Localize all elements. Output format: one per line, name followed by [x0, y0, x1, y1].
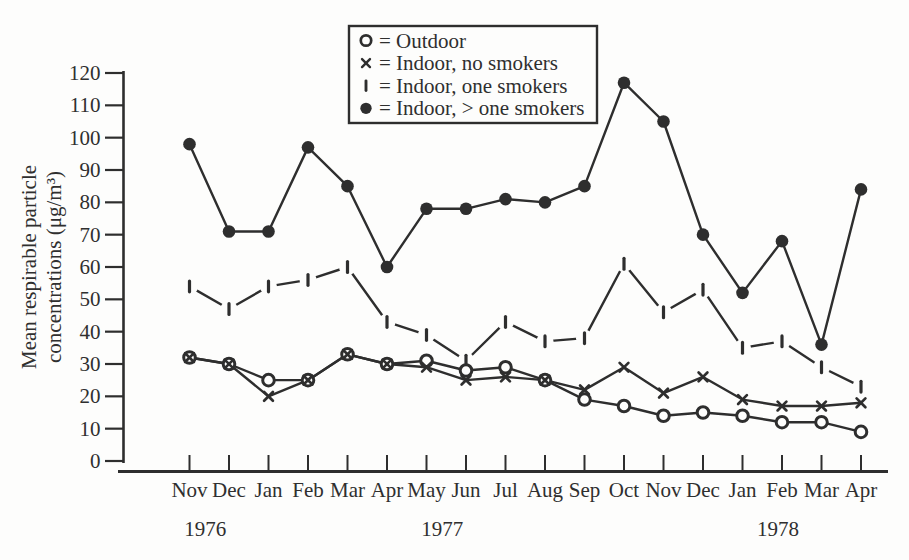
y-tick-label: 90 [80, 158, 101, 182]
series-markers-outdoor [184, 349, 867, 438]
year-label: 1976 [184, 517, 226, 541]
open-circle-icon [855, 426, 867, 438]
y-tick-label: 10 [80, 417, 101, 441]
y-axis-title: Mean respirable particle [17, 165, 41, 369]
y-tick-label: 0 [90, 449, 101, 473]
filled-circle-icon [736, 287, 749, 300]
x-icon [620, 363, 629, 372]
y-tick-label: 110 [70, 93, 101, 117]
filled-circle-icon [302, 141, 315, 154]
filled-circle-icon [578, 180, 591, 193]
y-tick-label: 70 [80, 223, 101, 247]
filled-circle-icon [855, 183, 868, 196]
x-tick-label: Nov [171, 478, 208, 502]
filled-circle-icon [381, 261, 394, 274]
x-tick-label: Dec [686, 478, 720, 502]
filled-circle-icon [776, 235, 789, 248]
x-tick-label: Feb [766, 478, 798, 502]
x-tick-label: Sep [569, 478, 601, 502]
particle-concentration-line-chart: = Outdoor= Indoor, no smokers= Indoor, o… [0, 0, 909, 560]
filled-circle-icon [460, 203, 473, 216]
y-tick-label: 50 [80, 287, 101, 311]
legend-entry-label: = Indoor, one smokers [379, 74, 567, 98]
x-tick-label: May [407, 478, 446, 502]
filled-circle-icon [262, 225, 275, 238]
series-line-outdoor [190, 354, 862, 432]
y-axis-title: concentrations (μg/m³) [42, 171, 66, 363]
open-circle-icon [776, 416, 788, 428]
legend-entry: = Indoor, one smokers [366, 74, 567, 98]
filled-circle-icon [360, 103, 371, 114]
x-tick-label: Apr [845, 478, 878, 502]
y-tick-label: 120 [69, 61, 101, 85]
series-layer [190, 83, 862, 432]
filled-circle-icon [657, 115, 670, 128]
legend: = Outdoor= Indoor, no smokers= Indoor, o… [349, 26, 597, 123]
year-label: 1977 [421, 517, 463, 541]
x-tick-label: Jul [493, 478, 518, 502]
filled-circle-icon [539, 196, 552, 209]
x-tick-label: Feb [292, 478, 324, 502]
filled-circle-icon [618, 76, 631, 89]
filled-circle-icon [697, 228, 710, 241]
y-tick-label: 40 [80, 320, 101, 344]
legend-entry-label: = Indoor, > one smokers [379, 96, 584, 120]
x-tick-label: Mar [330, 478, 365, 502]
y-tick-label: 60 [80, 255, 101, 279]
open-circle-icon [658, 410, 670, 422]
open-circle-icon [697, 407, 709, 419]
legend-entry: = Indoor, > one smokers [360, 96, 584, 120]
x-tick-label: Nov [645, 478, 682, 502]
filled-circle-icon [223, 225, 236, 238]
open-circle-icon [737, 410, 749, 422]
year-label: 1978 [757, 517, 799, 541]
legend-entry-label: = Indoor, no smokers [379, 51, 558, 75]
series-line-indoor-one-smokers [190, 264, 862, 387]
axes [105, 71, 888, 472]
open-circle-icon [361, 35, 371, 45]
legend-entry: = Indoor, no smokers [362, 51, 558, 75]
chart-figure: = Outdoor= Indoor, no smokers= Indoor, o… [0, 0, 909, 560]
x-tick-label: Jan [255, 478, 283, 502]
x-tick-label: Jun [451, 478, 481, 502]
filled-circle-icon [499, 193, 512, 206]
legend-entry-label: = Outdoor [379, 29, 466, 53]
y-tick-label: 100 [69, 126, 101, 150]
open-circle-icon [618, 400, 630, 412]
y-tick-label: 20 [80, 384, 101, 408]
filled-circle-icon [341, 180, 354, 193]
x-tick-label: Mar [804, 478, 839, 502]
filled-circle-icon [420, 203, 433, 216]
y-tick-label: 30 [80, 352, 101, 376]
y-tick-label: 80 [80, 190, 101, 214]
marker-layer [181, 76, 870, 437]
x-tick-label: Oct [609, 478, 639, 502]
filled-circle-icon [183, 138, 196, 151]
open-circle-icon [263, 374, 275, 386]
x-tick-label: Dec [212, 478, 246, 502]
axis-labels: 0102030405060708090100110120NovDecJanFeb… [17, 61, 877, 541]
filled-circle-icon [815, 338, 828, 351]
x-tick-label: Aug [527, 478, 564, 502]
x-tick-label: Apr [371, 478, 404, 502]
x-tick-label: Jan [729, 478, 757, 502]
open-circle-icon [816, 416, 828, 428]
